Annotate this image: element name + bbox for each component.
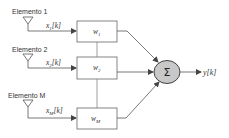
signal-label-m: xM[k] [45, 106, 63, 116]
output-label: y[k] [202, 68, 216, 77]
array-element-2: Elemento 2 x2[k] w2 [12, 46, 117, 79]
element-2-label: Elemento 2 [12, 46, 48, 53]
beamformer-diagram: Elemento 1 x1[k] w1 Elemento 2 x2[k] w2 … [0, 0, 229, 138]
sigma-icon: Σ [164, 66, 171, 79]
element-m-label: Elemento M [8, 92, 46, 99]
antenna-icon [23, 100, 33, 107]
summer-node: Σ [154, 61, 180, 84]
array-element-1: Elemento 1 x1[k] w1 [12, 8, 117, 42]
weighted-line-1 [117, 31, 158, 62]
signal-label-2: x2[k] [45, 58, 61, 68]
array-element-m: Elemento M xM[k] wM [8, 92, 117, 129]
antenna-icon [23, 17, 33, 24]
weighted-line-m [117, 82, 159, 118]
element-1-label: Elemento 1 [12, 8, 48, 15]
signal-label-1: x1[k] [45, 21, 61, 31]
antenna-icon [23, 54, 33, 61]
